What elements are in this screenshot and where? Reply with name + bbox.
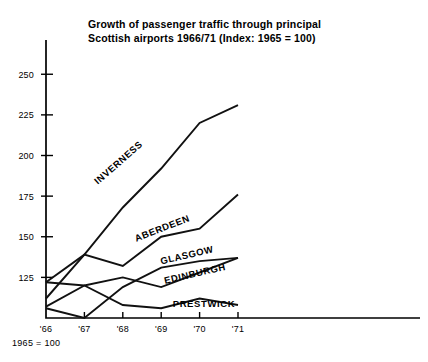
y-tick-label: 125: [18, 273, 34, 283]
y-tick-label: 250: [18, 70, 34, 80]
series-labels: INVERNESSABERDEENGLASGOWEDINBURGHPRESTWI…: [92, 138, 235, 308]
x-axis-ticks: [84, 312, 238, 318]
series-label-edinburgh: EDINBURGH: [163, 261, 227, 286]
x-tick-label: '66: [40, 324, 52, 334]
y-axis-tick-labels: 125150175200225250: [18, 70, 34, 283]
y-tick-label: 175: [18, 192, 34, 202]
x-tick-label: '69: [155, 324, 167, 334]
y-tick-label: 225: [18, 110, 34, 120]
x-tick-label: '70: [193, 324, 205, 334]
y-tick-label: 200: [18, 151, 34, 161]
series-label-prestwick: PRESTWICK: [173, 298, 235, 309]
series-label-aberdeen: ABERDEEN: [133, 212, 191, 243]
x-tick-label: '71: [232, 324, 244, 334]
x-tick-label: '68: [117, 324, 129, 334]
x-axis-tick-labels: '66'67'68'69'70'71: [40, 324, 244, 334]
y-tick-label: 150: [18, 232, 34, 242]
x-tick-label: '67: [78, 324, 90, 334]
y-axis-ticks: [41, 74, 53, 277]
chart-footnote: 1965 = 100: [12, 338, 60, 348]
series-lines: [46, 105, 238, 318]
series-label-inverness: INVERNESS: [92, 138, 145, 186]
line-chart-plot: INVERNESSABERDEENGLASGOWEDINBURGHPRESTWI…: [0, 0, 428, 362]
chart-container: Growth of passenger traffic through prin…: [0, 0, 428, 362]
